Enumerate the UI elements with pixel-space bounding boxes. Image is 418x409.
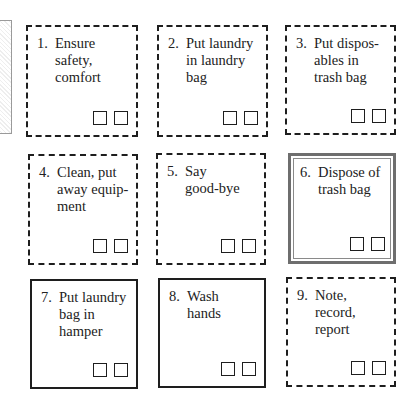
checkbox-1[interactable]	[93, 239, 107, 253]
step-label: Say good-bye	[185, 163, 258, 197]
step-number: 3.	[296, 35, 314, 86]
step-number: 7.	[41, 289, 59, 340]
checkbox-2[interactable]	[242, 239, 256, 253]
checkbox-2[interactable]	[371, 237, 385, 251]
step-1-box: 1. Ensure safety, comfort	[26, 25, 138, 137]
step-checkboxes	[351, 109, 386, 123]
checkbox-2[interactable]	[372, 361, 386, 375]
checkbox-1[interactable]	[223, 111, 237, 125]
step-8-text: 8. Wash hands	[169, 288, 258, 322]
step-number: 9.	[297, 287, 315, 338]
step-checkboxes	[221, 239, 256, 253]
step-label: Clean, put away equip- ment	[57, 164, 130, 215]
step-number: 1.	[37, 35, 55, 86]
step-number: 8.	[169, 288, 187, 322]
step-label: Note, record, report	[315, 287, 388, 338]
step-6-text: 6. Dispose of trash bag	[300, 164, 387, 198]
checkbox-1[interactable]	[93, 111, 107, 125]
step-2-text: 2. Put laundry in laundry bag	[168, 35, 260, 86]
step-number: 5.	[167, 163, 185, 197]
step-label: Dispose of trash bag	[318, 164, 387, 198]
step-label: Ensure safety, comfort	[55, 35, 130, 86]
checkbox-2[interactable]	[114, 363, 128, 377]
step-3-text: 3. Put dispos- ables in trash bag	[296, 35, 388, 86]
step-5-box: 5. Say good-bye	[156, 153, 266, 265]
step-checkboxes	[93, 239, 128, 253]
checkbox-2[interactable]	[242, 362, 256, 376]
step-number: 2.	[168, 35, 186, 86]
step-7-box: 7. Put laundry bag in hamper	[30, 279, 138, 389]
step-2-box: 2. Put laundry in laundry bag	[157, 25, 268, 137]
step-label: Put laundry in laundry bag	[186, 35, 260, 86]
step-label: Wash hands	[187, 288, 258, 322]
step-checkboxes	[351, 361, 386, 375]
checkbox-1[interactable]	[351, 109, 365, 123]
step-6-box: 6. Dispose of trash bag	[288, 153, 396, 264]
checkbox-1[interactable]	[350, 237, 364, 251]
step-label: Put dispos- ables in trash bag	[314, 35, 388, 86]
step-9-text: 9. Note, record, report	[297, 287, 388, 338]
cropped-adjacent-box	[0, 20, 12, 134]
step-number: 4.	[39, 164, 57, 215]
checkbox-1[interactable]	[221, 362, 235, 376]
checkbox-2[interactable]	[372, 109, 386, 123]
step-checkboxes	[223, 111, 258, 125]
step-checkboxes	[221, 362, 256, 376]
checkbox-1[interactable]	[221, 239, 235, 253]
step-4-text: 4. Clean, put away equip- ment	[39, 164, 130, 215]
step-3-box: 3. Put dispos- ables in trash bag	[285, 25, 396, 135]
step-9-box: 9. Note, record, report	[286, 277, 396, 387]
step-label: Put laundry bag in hamper	[59, 289, 130, 340]
step-4-box: 4. Clean, put away equip- ment	[28, 154, 138, 265]
checkbox-2[interactable]	[244, 111, 258, 125]
checkbox-1[interactable]	[93, 363, 107, 377]
checkbox-1[interactable]	[351, 361, 365, 375]
procedure-checklist-diagram: 1. Ensure safety, comfort 2. Put laundry…	[0, 0, 418, 409]
checkbox-2[interactable]	[114, 111, 128, 125]
step-5-text: 5. Say good-bye	[167, 163, 258, 197]
step-checkboxes	[350, 237, 385, 251]
step-checkboxes	[93, 111, 128, 125]
checkbox-2[interactable]	[114, 239, 128, 253]
step-8-box: 8. Wash hands	[158, 278, 266, 388]
step-checkboxes	[93, 363, 128, 377]
step-number: 6.	[300, 164, 318, 198]
step-7-text: 7. Put laundry bag in hamper	[41, 289, 130, 340]
step-1-text: 1. Ensure safety, comfort	[37, 35, 130, 86]
